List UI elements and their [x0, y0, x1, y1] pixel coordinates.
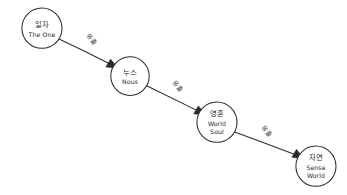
- emanation-diagram: 유출 유출 유출 일자 The One: [0, 0, 347, 195]
- node-label-ko: 일자: [35, 20, 50, 29]
- edge-line: [147, 86, 199, 112]
- diagram-canvas: 유출 유출 유출 일자 The One: [0, 0, 347, 195]
- node-label-en-line2: Soul: [210, 128, 224, 135]
- node-label-ko: 누스: [123, 68, 138, 77]
- edges-layer: 유출 유출 유출: [60, 32, 305, 159]
- node-label-en-line2: World: [307, 172, 325, 179]
- edge-nous-to-world-soul: 유출: [147, 79, 206, 116]
- node-nous[interactable]: 누스 Nous: [111, 57, 149, 96]
- node-label-ko: 자연: [309, 153, 324, 162]
- edge-label: 유출: [259, 124, 274, 139]
- node-sense-world[interactable]: 자연 Sense World: [296, 146, 336, 186]
- edge-one-to-nous: 유출: [60, 32, 119, 69]
- node-label-ko: 영혼: [210, 109, 225, 118]
- edge-world-soul-to-sense-world: 유출: [234, 124, 304, 159]
- node-label-en: The One: [28, 31, 56, 38]
- node-label-en-line1: World: [208, 120, 226, 127]
- node-world-soul[interactable]: 영혼 World Soul: [197, 102, 237, 142]
- node-label-en-line1: Sense: [306, 164, 325, 171]
- node-the-one[interactable]: 일자 The One: [22, 8, 62, 48]
- nodes-layer: 일자 The One 누스 Nous 영혼 World Soul 자연 Sens…: [22, 8, 336, 186]
- node-label-en: Nous: [122, 78, 138, 85]
- edge-line: [60, 39, 112, 65]
- edge-label: 유출: [170, 79, 185, 94]
- edge-label: 유출: [84, 32, 99, 47]
